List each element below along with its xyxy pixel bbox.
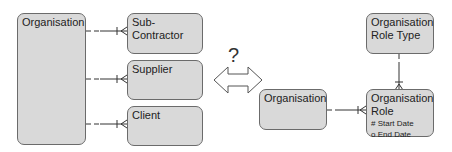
entity-label: Organisation — [22, 16, 84, 28]
organisation-role-type-entity: Organisation Role Type — [366, 13, 434, 54]
client-entity: Client — [127, 106, 203, 146]
entity-label: Organisation Role Type — [371, 16, 433, 41]
question-mark: ? — [228, 44, 239, 67]
organisation-entity: Organisation — [259, 89, 327, 130]
entity-label: Organisation Role — [371, 92, 429, 118]
sub-contractor-entity: Sub-Contractor — [127, 13, 203, 54]
entity-label: Client — [132, 109, 160, 121]
attribute-end-date: o End Date — [371, 129, 429, 140]
entity-label: Organisation — [264, 92, 326, 104]
double-arrow-icon — [214, 67, 262, 93]
organisation-role-entity: Organisation Role # Start Date o End Dat… — [366, 89, 434, 137]
organisation-supertype-entity: Organisation — [17, 13, 86, 145]
attribute-start-date: # Start Date — [371, 118, 429, 129]
entity-label: Supplier — [132, 63, 172, 75]
supplier-entity: Supplier — [127, 60, 203, 100]
entity-label: Sub-Contractor — [132, 16, 183, 41]
